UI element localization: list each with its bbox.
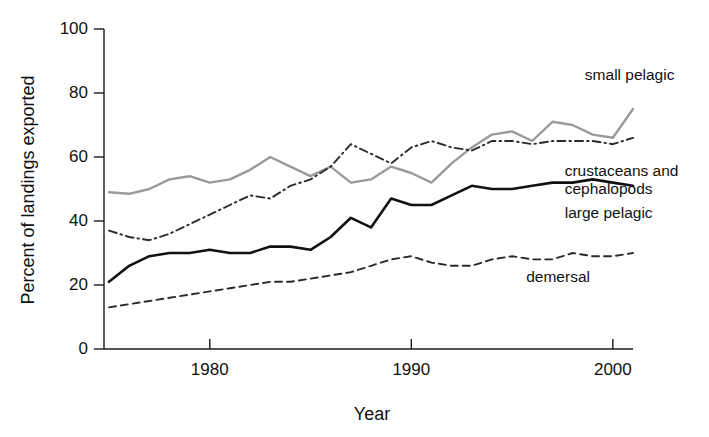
line-chart: 020406080100 198019902000 small pelagicc… (0, 0, 709, 437)
y-tick-label: 40 (69, 211, 88, 230)
chart-figure: 020406080100 198019902000 small pelagicc… (0, 0, 709, 437)
x-axis-ticks: 198019902000 (191, 339, 632, 379)
series-label-demersal: demersal (526, 268, 590, 285)
y-axis-ticks: 020406080100 (60, 19, 104, 358)
series-label-crustaceans-and-cephalopods: crustaceans and (565, 162, 679, 179)
x-axis-title: Year (354, 404, 390, 424)
series-label-large-pelagic: large pelagic (565, 204, 653, 221)
y-tick-label: 0 (79, 339, 88, 358)
y-tick-label: 60 (69, 147, 88, 166)
series-label-crustaceans-and-cephalopods: cephalopods (565, 180, 653, 197)
x-tick-label: 2000 (594, 360, 632, 379)
y-axis-title: Percent of landings exported (18, 75, 38, 304)
series-annotations: small pelagiccrustaceans andcephalopodsl… (526, 66, 678, 285)
y-tick-label: 100 (60, 19, 88, 38)
x-tick-label: 1990 (392, 360, 430, 379)
y-tick-label: 80 (69, 83, 88, 102)
x-tick-label: 1980 (191, 360, 229, 379)
series-label-small-pelagic: small pelagic (585, 66, 675, 83)
series-line-small-pelagic (109, 109, 633, 194)
series-line-crustaceans-and-cephalopods (109, 138, 633, 240)
y-tick-label: 20 (69, 275, 88, 294)
